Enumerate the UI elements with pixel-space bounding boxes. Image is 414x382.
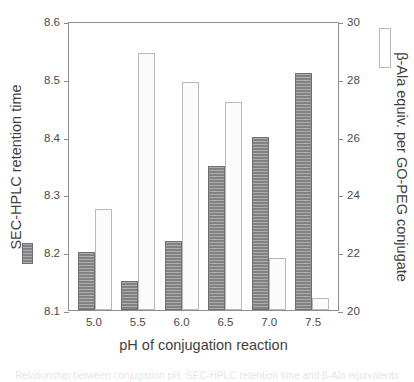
right-tick-mark — [338, 312, 343, 313]
right-tick-mark — [338, 139, 343, 140]
left-tick-label: 8.4 — [44, 133, 60, 145]
bar-group — [291, 23, 335, 310]
plot-area: 8.18.28.38.48.58.6 202224262830 — [68, 22, 339, 311]
left-tick-label: 8.3 — [44, 191, 60, 203]
right-tick-label: 30 — [347, 17, 360, 29]
bar-retention-time — [295, 73, 312, 310]
bar-retention-time — [121, 281, 138, 310]
right-tick-mark — [338, 196, 343, 197]
bar-retention-time — [252, 137, 269, 310]
x-axis-tick-labels: 5.05.56.06.57.07.5 — [68, 316, 339, 328]
bars-layer — [69, 23, 338, 310]
x-tick-label: 7.5 — [291, 316, 335, 328]
bar-bala-equiv — [95, 209, 112, 310]
bar-bala-equiv — [225, 102, 242, 310]
left-tick-label: 8.6 — [44, 17, 60, 29]
x-axis-title: pH of conjugation reaction — [68, 337, 339, 353]
left-axis-title: SEC-HPLC retention time — [6, 22, 26, 311]
bar-retention-time — [78, 252, 95, 310]
bar-bala-equiv — [182, 82, 199, 310]
right-axis-title: β-Ala equiv. per GO-PEG conjugate — [392, 22, 412, 311]
right-tick-label: 28 — [347, 75, 360, 87]
right-tick-label: 26 — [347, 133, 360, 145]
caption-remnant: Relationship between conjugation pH, SEC… — [0, 370, 414, 382]
bar-group — [204, 23, 248, 310]
x-tick-label: 5.0 — [72, 316, 116, 328]
bar-retention-time — [208, 166, 225, 311]
right-tick-label: 24 — [347, 191, 360, 203]
left-tick-label: 8.1 — [44, 306, 60, 318]
left-tick-label: 8.5 — [44, 75, 60, 87]
x-tick-label: 7.0 — [247, 316, 291, 328]
bar-group — [117, 23, 161, 310]
x-tick-label: 6.0 — [160, 316, 204, 328]
right-tick-label: 20 — [347, 306, 360, 318]
right-tick-mark — [338, 254, 343, 255]
left-axis-title-text: SEC-HPLC retention time — [8, 84, 24, 249]
bar-retention-time — [165, 241, 182, 310]
legend-swatch-bala-equiv — [379, 28, 391, 68]
bar-group — [73, 23, 117, 310]
bar-group — [160, 23, 204, 310]
right-tick-mark — [338, 23, 343, 24]
left-tick-mark — [64, 312, 69, 313]
right-tick-label: 22 — [347, 248, 360, 260]
x-tick-label: 6.5 — [203, 316, 247, 328]
bar-bala-equiv — [269, 258, 286, 310]
left-tick-label: 8.2 — [44, 248, 60, 260]
right-axis-title-text: β-Ala equiv. per GO-PEG conjugate — [394, 52, 410, 282]
bar-bala-equiv — [138, 53, 155, 310]
x-tick-label: 5.5 — [116, 316, 160, 328]
bar-group — [247, 23, 291, 310]
chart-figure: SEC-HPLC retention time β-Ala equiv. per… — [0, 0, 414, 382]
legend-swatch-retention-time — [22, 243, 33, 264]
right-tick-mark — [338, 81, 343, 82]
bar-bala-equiv — [312, 298, 329, 310]
